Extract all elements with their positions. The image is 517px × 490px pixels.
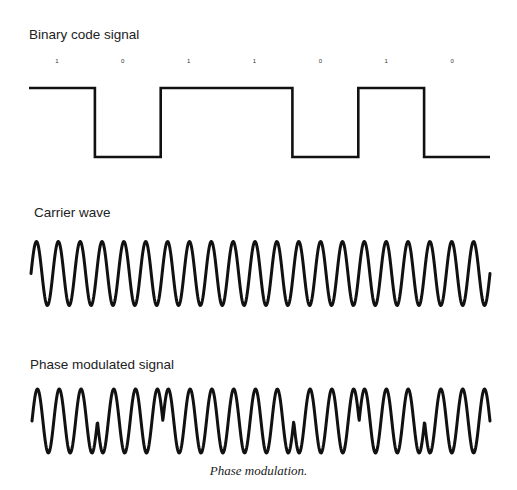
binary-square-wave [29,88,490,157]
figure-caption: Phase modulation. [0,463,517,479]
phase-modulated-wave [32,389,490,453]
carrier-sine-wave [31,242,490,306]
signal-diagram [0,0,517,490]
